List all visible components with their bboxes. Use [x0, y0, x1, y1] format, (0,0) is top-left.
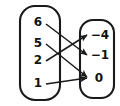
domain-element-5: 5 [34, 36, 42, 50]
range-element-minus4: −4 [91, 28, 109, 42]
range-element-minus1: −1 [91, 48, 109, 62]
domain-element-1: 1 [34, 76, 42, 90]
mapping-diagram: 6 5 2 1 −4 −1 0 [0, 0, 120, 106]
domain-element-6: 6 [34, 15, 42, 29]
domain-element-2: 2 [34, 53, 42, 67]
range-element-0: 0 [95, 71, 103, 85]
domain-element-labels: 6 5 2 1 [34, 15, 42, 90]
mapping-diagram-canvas: 6 5 2 1 −4 −1 0 [0, 0, 120, 106]
